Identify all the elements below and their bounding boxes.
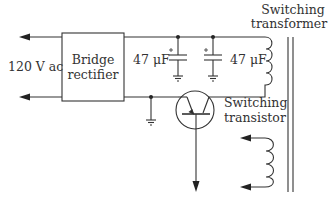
arrow-left-icon bbox=[19, 34, 30, 41]
arrow-down-icon bbox=[193, 181, 200, 192]
switching-transistor-symbol bbox=[176, 91, 214, 192]
transformer-label-line2: transformer bbox=[250, 17, 328, 31]
capacitor-2-label: 47 μF bbox=[230, 53, 267, 67]
transistor-label-line2: transistor bbox=[224, 111, 286, 125]
secondary-winding bbox=[244, 138, 274, 187]
arrow-left-icon bbox=[240, 135, 251, 142]
rectifier-label-line1: Bridge bbox=[62, 53, 124, 67]
transformer-label-line1: Switching bbox=[258, 3, 328, 17]
capacitor-1-label: 47 μF bbox=[133, 53, 170, 67]
capacitor-2-symbol bbox=[204, 37, 222, 81]
rectifier-label-line2: rectifier bbox=[62, 68, 124, 82]
transistor-label-line1: Switching bbox=[224, 96, 287, 110]
ac-input-top-wire bbox=[19, 34, 62, 41]
primary-winding bbox=[209, 37, 272, 97]
arrow-left-icon bbox=[19, 94, 30, 101]
arrow-left-icon bbox=[240, 184, 251, 191]
capacitor-1-symbol bbox=[169, 37, 187, 81]
ac-input-bottom-wire bbox=[19, 94, 62, 101]
input-voltage-label: 120 V ac bbox=[8, 60, 63, 74]
